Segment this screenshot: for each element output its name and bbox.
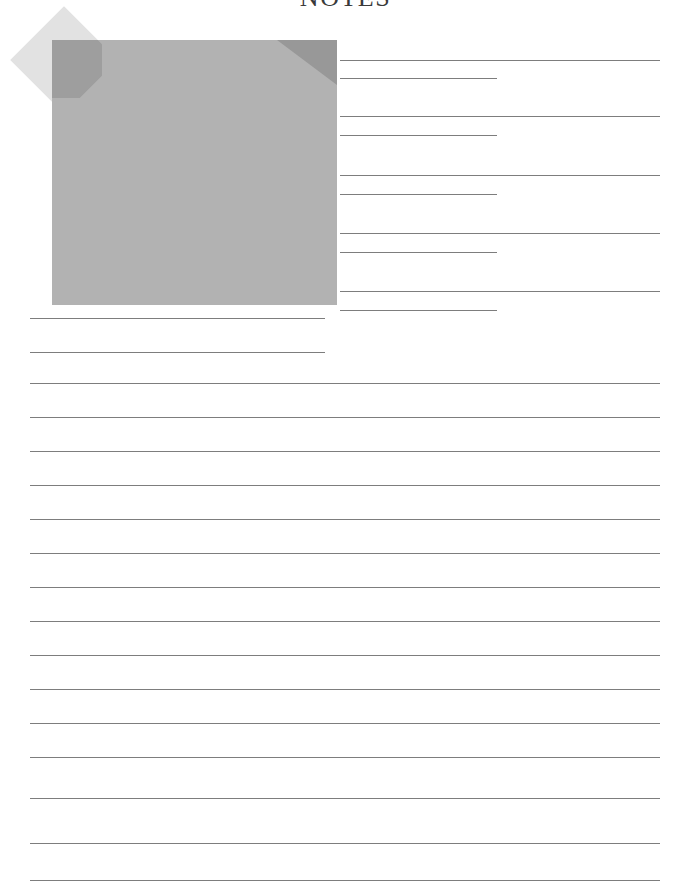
sticky-note-illustration xyxy=(0,0,360,320)
rule-left-0 xyxy=(30,318,325,319)
rule-right-4 xyxy=(340,175,660,176)
rule-full-14 xyxy=(30,880,660,881)
note-tape-overlap-shape xyxy=(52,40,102,98)
rule-right-0 xyxy=(340,60,660,61)
note-folded-corner-shape xyxy=(277,40,337,85)
rule-right-2 xyxy=(340,116,660,117)
rule-full-6 xyxy=(30,587,660,588)
rule-full-2 xyxy=(30,451,660,452)
rule-full-10 xyxy=(30,723,660,724)
rule-full-12 xyxy=(30,798,660,799)
rule-full-5 xyxy=(30,553,660,554)
rule-full-11 xyxy=(30,757,660,758)
rule-right-1 xyxy=(340,78,497,79)
rule-full-3 xyxy=(30,485,660,486)
notes-page: NOTES xyxy=(0,0,691,883)
rule-right-6 xyxy=(340,233,660,234)
rule-full-8 xyxy=(30,655,660,656)
rule-right-8 xyxy=(340,291,660,292)
rule-full-4 xyxy=(30,519,660,520)
rule-full-7 xyxy=(30,621,660,622)
rule-right-5 xyxy=(340,194,497,195)
rule-full-1 xyxy=(30,417,660,418)
rule-full-13 xyxy=(30,843,660,844)
rule-full-0 xyxy=(30,383,660,384)
rule-full-9 xyxy=(30,689,660,690)
rule-right-7 xyxy=(340,252,497,253)
rule-left-1 xyxy=(30,352,325,353)
rule-right-3 xyxy=(340,135,497,136)
rule-right-9 xyxy=(340,310,497,311)
